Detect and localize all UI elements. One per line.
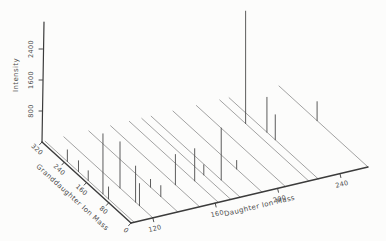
granddaughter-axis-label: Granddaughter Ion Mass <box>34 163 110 233</box>
row-baseline <box>173 111 262 192</box>
daughter-tick-label: 120 <box>148 223 163 234</box>
granddaughter-tick-label: 80 <box>98 204 110 216</box>
daughter-axis-line <box>131 167 368 223</box>
tick-labels-group: 80016002400320240160800120160200240 <box>27 40 349 235</box>
ms3d-plot: 80016002400320240160800120160200240 Inte… <box>0 0 386 241</box>
daughter-tick <box>153 218 154 222</box>
row-baseline <box>142 118 231 199</box>
daughter-tick <box>340 174 341 178</box>
daughter-tick-label: 240 <box>335 179 350 190</box>
row-baseline <box>129 121 218 202</box>
intensity-axis-line <box>42 22 44 142</box>
granddaughter-tick <box>84 183 86 186</box>
row-baseline <box>111 126 200 207</box>
granddaughter-tick <box>106 203 108 206</box>
daughter-tick <box>215 203 216 207</box>
granddaughter-tick-label: 0 <box>122 226 131 235</box>
granddaughter-tick <box>129 223 131 226</box>
figure-canvas: 80016002400320240160800120160200240 Inte… <box>0 0 386 241</box>
row-baseline <box>220 100 309 181</box>
granddaughter-tick <box>62 162 64 165</box>
daughter-tick <box>278 188 279 192</box>
peak-sticks-group <box>67 11 317 206</box>
row-baseline <box>196 106 285 187</box>
row-baselines-group <box>45 86 368 222</box>
intensity-axis-label: Intensity <box>12 58 20 92</box>
daughter-axis-label: Daughter Ion Mass <box>223 194 295 218</box>
granddaughter-tick-label: 320 <box>29 142 44 157</box>
intensity-tick-label: 2400 <box>27 40 35 58</box>
granddaughter-tick <box>40 142 42 145</box>
intensity-tick-label: 1600 <box>27 71 35 89</box>
row-baseline <box>151 116 240 197</box>
intensity-tick-label: 800 <box>27 104 35 117</box>
